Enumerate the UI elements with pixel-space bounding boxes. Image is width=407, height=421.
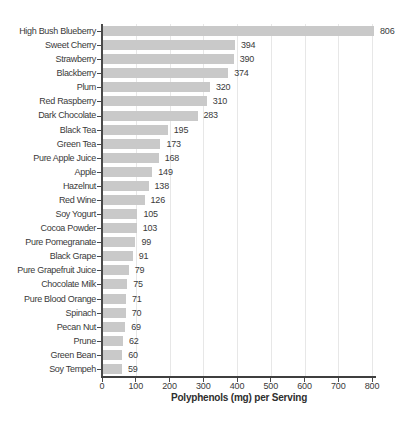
bar: [102, 294, 126, 304]
bar: [102, 364, 122, 374]
value-label: 71: [132, 292, 142, 306]
category-label: Blackberry: [0, 66, 96, 80]
bar: [102, 82, 210, 92]
value-label: 126: [151, 193, 165, 207]
category-label: Soy Yogurt: [0, 207, 96, 221]
category-label: Pecan Nut: [0, 320, 96, 334]
category-label: Red Wine: [0, 193, 96, 207]
value-label: 168: [165, 151, 179, 165]
value-label: 195: [174, 123, 188, 137]
bar: [102, 279, 127, 289]
polyphenols-bar-chart: High Bush BlueberrySweet CherryStrawberr…: [0, 0, 407, 421]
bar: [102, 68, 228, 78]
category-label: Soy Tempeh: [0, 362, 96, 376]
bar: [102, 209, 137, 219]
category-label: Chocolate Milk: [0, 277, 96, 291]
value-label: 62: [129, 334, 139, 348]
bar: [102, 167, 152, 177]
bar: [102, 350, 122, 360]
category-label: Green Bean: [0, 348, 96, 362]
x-tick-label: 800: [355, 381, 389, 391]
x-axis-line: [101, 376, 376, 378]
category-label: Spinach: [0, 306, 96, 320]
category-label: Hazelnut: [0, 179, 96, 193]
value-label: 320: [216, 80, 230, 94]
value-label: 99: [141, 235, 151, 249]
bar: [102, 111, 198, 121]
category-axis-labels: High Bush BlueberrySweet CherryStrawberr…: [0, 0, 96, 380]
category-label: Pure Blood Orange: [0, 292, 96, 306]
value-label: 75: [133, 277, 143, 291]
gridline: [271, 24, 272, 376]
x-tick-label: 200: [153, 381, 187, 391]
value-label: 105: [143, 207, 157, 221]
x-tick-label: 700: [321, 381, 355, 391]
bar: [102, 322, 125, 332]
value-label: 310: [213, 94, 227, 108]
x-tick-label: 100: [119, 381, 153, 391]
value-label: 138: [155, 179, 169, 193]
value-label: 390: [240, 52, 254, 66]
bar: [102, 195, 145, 205]
plot-area: 8063943903743203102831951731681491381261…: [102, 24, 399, 376]
y-axis-line: [101, 24, 103, 378]
category-label: Pure Apple Juice: [0, 151, 96, 165]
gridline: [305, 24, 306, 376]
value-label: 173: [166, 137, 180, 151]
value-label: 69: [131, 320, 141, 334]
category-label: Plum: [0, 80, 96, 94]
category-label: Green Tea: [0, 137, 96, 151]
category-label: Black Grape: [0, 249, 96, 263]
bar: [102, 153, 159, 163]
value-label: 79: [135, 263, 145, 277]
x-tick-label: 300: [186, 381, 220, 391]
bar: [102, 308, 126, 318]
category-label: Prune: [0, 334, 96, 348]
x-tick-label: 500: [254, 381, 288, 391]
value-label: 103: [143, 221, 157, 235]
bar: [102, 336, 123, 346]
category-label: Pure Pomegranate: [0, 235, 96, 249]
category-label: Strawberry: [0, 52, 96, 66]
category-label: Black Tea: [0, 123, 96, 137]
bar: [102, 265, 129, 275]
gridline: [338, 24, 339, 376]
category-label: Dark Chocolate: [0, 108, 96, 122]
x-tick-label: 400: [220, 381, 254, 391]
value-label: 374: [234, 66, 248, 80]
value-label: 149: [158, 165, 172, 179]
value-label: 70: [132, 306, 142, 320]
bar: [102, 223, 137, 233]
category-label: High Bush Blueberry: [0, 24, 96, 38]
bar: [102, 26, 374, 36]
bar: [102, 96, 207, 106]
value-label: 60: [128, 348, 138, 362]
category-label: Apple: [0, 165, 96, 179]
value-label: 806: [380, 24, 394, 38]
bar: [102, 139, 160, 149]
category-label: Sweet Cherry: [0, 38, 96, 52]
x-tick-label: 0: [85, 381, 119, 391]
value-label: 59: [128, 362, 138, 376]
bar: [102, 125, 168, 135]
category-label: Cocoa Powder: [0, 221, 96, 235]
x-axis-title: Polyphenols (mg) per Serving: [102, 392, 376, 403]
value-label: 283: [204, 108, 218, 122]
category-label: Pure Grapefruit Juice: [0, 263, 96, 277]
category-label: Red Raspberry: [0, 94, 96, 108]
value-label: 394: [241, 38, 255, 52]
bar: [102, 251, 133, 261]
bar: [102, 54, 234, 64]
gridline: [372, 24, 373, 376]
x-tick-label: 600: [288, 381, 322, 391]
bar: [102, 40, 235, 50]
value-label: 91: [139, 249, 149, 263]
bar: [102, 181, 149, 191]
bar: [102, 237, 135, 247]
